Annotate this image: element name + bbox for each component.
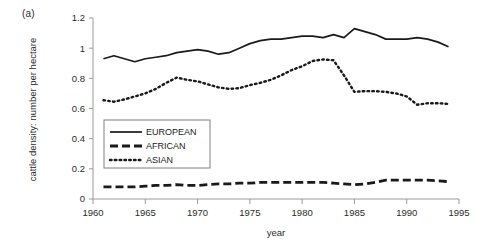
x-tick-label: 1965 xyxy=(135,207,156,218)
line-chart: 00.20.40.60.811.2 1960196519701975198019… xyxy=(0,0,485,247)
y-tick-label: 1 xyxy=(80,43,85,54)
series-line-asian xyxy=(103,59,448,104)
y-tick-label: 0 xyxy=(80,193,85,204)
legend-label-african: AFRICAN xyxy=(146,141,186,151)
series-line-african xyxy=(103,180,448,187)
x-tick-label: 1985 xyxy=(344,207,365,218)
x-tick-label: 1975 xyxy=(239,207,260,218)
series-line-european xyxy=(103,29,448,62)
y-tick-label: 0.4 xyxy=(72,133,85,144)
x-axis: 19601965197019751980198519901995 xyxy=(82,199,469,218)
legend: EUROPEANAFRICANASIAN xyxy=(104,120,210,168)
y-tick-label: 0.2 xyxy=(72,163,85,174)
legend-label-asian: ASIAN xyxy=(146,155,173,165)
y-tick-label: 1.2 xyxy=(72,12,85,23)
x-tick-label: 1970 xyxy=(187,207,208,218)
legend-label-european: EUROPEAN xyxy=(146,127,197,137)
y-tick-label: 0.6 xyxy=(72,103,85,114)
figure-panel: (a) cattle density: number per hectare y… xyxy=(0,0,485,247)
x-tick-label: 1980 xyxy=(292,207,313,218)
x-tick-label: 1990 xyxy=(396,207,417,218)
x-tick-label: 1995 xyxy=(448,207,469,218)
y-tick-label: 0.8 xyxy=(72,73,85,84)
y-axis: 00.20.40.60.811.2 xyxy=(72,12,93,204)
x-tick-label: 1960 xyxy=(82,207,103,218)
